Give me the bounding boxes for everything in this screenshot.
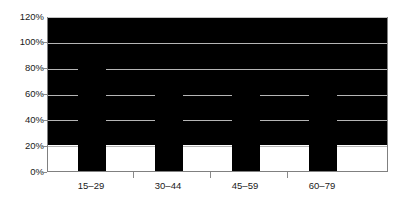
y-axis-label-20: 20% <box>0 141 44 151</box>
y-axis-tick-0 <box>42 172 47 173</box>
bar-chart-figure: 120% 100% 80% 60% 40% 20% 0% <box>0 0 406 204</box>
gridline-100 <box>48 43 387 44</box>
bar-30-44 <box>155 76 183 171</box>
bar-45-59 <box>232 85 260 171</box>
x-axis-label-45-59: 45–59 <box>205 181 285 191</box>
bar-series <box>48 17 387 145</box>
y-axis-label-0: 0% <box>0 167 44 177</box>
x-axis-tick-1 <box>133 172 134 178</box>
y-axis-label-80: 80% <box>0 63 44 73</box>
x-axis-tick-3 <box>287 172 288 178</box>
gridline-120 <box>48 17 387 18</box>
x-axis-label-15-29: 15–29 <box>51 181 131 191</box>
plot-area <box>47 17 388 172</box>
y-axis-label-60: 60% <box>0 89 44 99</box>
bar-60-79 <box>309 84 337 171</box>
bar-15-29 <box>78 53 106 171</box>
y-axis-label-100: 100% <box>0 37 44 47</box>
x-axis-label-30-44: 30–44 <box>128 181 208 191</box>
x-axis-label-60-79: 60–79 <box>282 181 362 191</box>
y-axis-label-120: 120% <box>0 12 44 22</box>
x-axis-tick-2 <box>210 172 211 178</box>
y-axis-label-40: 40% <box>0 115 44 125</box>
